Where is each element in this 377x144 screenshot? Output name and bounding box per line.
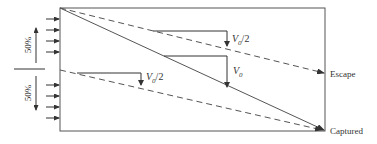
lower-half-trajectory bbox=[60, 70, 322, 130]
bracket-arrow-icon bbox=[138, 80, 144, 86]
full-velocity-label: V0 bbox=[233, 65, 243, 79]
lower-velocity-label: V0/2 bbox=[146, 71, 163, 85]
bracket-arrow-icon bbox=[224, 82, 230, 88]
captured-label: Captured bbox=[330, 126, 363, 136]
lower-velocity-bracket bbox=[77, 73, 144, 86]
inlet-arrows-lower bbox=[46, 85, 59, 118]
bracket-arrow-icon bbox=[224, 41, 230, 47]
escape-label: Escape bbox=[330, 69, 355, 79]
upper-velocity-bracket bbox=[153, 31, 230, 47]
escape-trajectory bbox=[60, 8, 324, 73]
upper-velocity-label: V0/2 bbox=[232, 33, 249, 47]
inlet-arrows-upper bbox=[46, 19, 59, 52]
upper-fraction-label: 50% bbox=[23, 36, 33, 53]
lower-fraction-label: 50% bbox=[23, 84, 33, 101]
settling-chamber-diagram: 50% 50% V0/2 V0 V0/2 Escape Captured bbox=[0, 0, 377, 144]
critical-trajectory bbox=[60, 8, 324, 130]
